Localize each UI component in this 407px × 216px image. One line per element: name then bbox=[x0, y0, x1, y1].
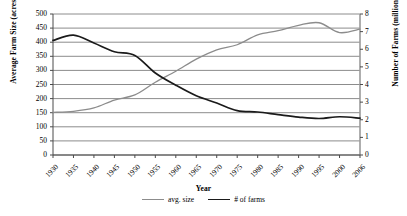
legend-line-number-of-farms bbox=[208, 199, 230, 200]
legend-item-number-of-farms: # of farms bbox=[208, 195, 265, 204]
farm-size-vs-farm-count-chart: Average Farm Size (acres) Number of Farm… bbox=[0, 0, 407, 216]
legend-line-avg-size bbox=[142, 199, 164, 200]
legend-label-avg-size: avg. size bbox=[168, 195, 194, 204]
legend-label-number-of-farms: # of farms bbox=[234, 195, 265, 204]
chart-legend: avg. size # of farms bbox=[0, 195, 407, 204]
legend-item-avg-size: avg. size bbox=[142, 195, 194, 204]
plot-area bbox=[0, 0, 407, 216]
